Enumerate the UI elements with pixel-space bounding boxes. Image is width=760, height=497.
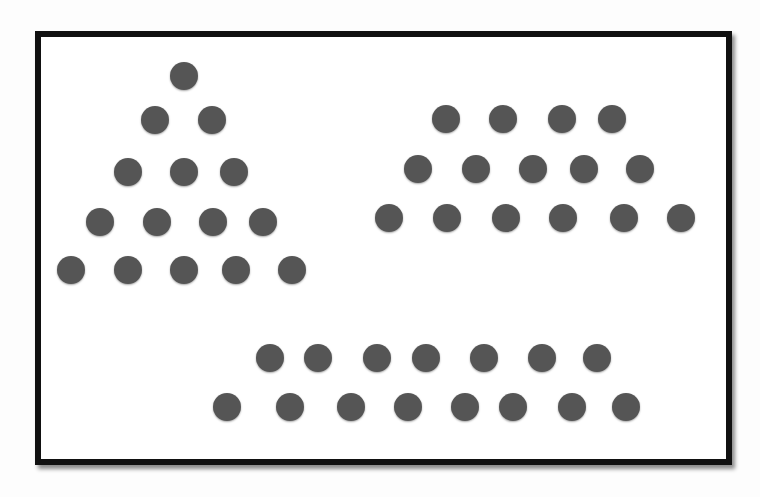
dot-triangle	[170, 158, 198, 186]
dot-two-rows	[583, 344, 611, 372]
dot-trapezoid	[570, 155, 598, 183]
dot-two-rows	[256, 344, 284, 372]
dot-trapezoid	[548, 105, 576, 133]
dot-triangle	[141, 106, 169, 134]
dot-two-rows	[499, 393, 527, 421]
dot-two-rows	[412, 344, 440, 372]
dot-two-rows	[213, 393, 241, 421]
dot-two-rows	[394, 393, 422, 421]
dot-trapezoid	[549, 204, 577, 232]
dot-triangle	[170, 62, 198, 90]
dot-two-rows	[363, 344, 391, 372]
dot-trapezoid	[667, 204, 695, 232]
dot-triangle	[278, 256, 306, 284]
dot-triangle	[143, 208, 171, 236]
dot-trapezoid	[433, 204, 461, 232]
dot-two-rows	[612, 393, 640, 421]
dot-trapezoid	[404, 155, 432, 183]
dot-two-rows	[304, 344, 332, 372]
dot-two-rows	[337, 393, 365, 421]
dot-trapezoid	[598, 105, 626, 133]
dot-triangle	[198, 106, 226, 134]
dot-two-rows	[558, 393, 586, 421]
dot-triangle	[114, 158, 142, 186]
dot-triangle	[222, 256, 250, 284]
dot-two-rows	[451, 393, 479, 421]
dot-two-rows	[528, 344, 556, 372]
dot-two-rows	[276, 393, 304, 421]
dot-trapezoid	[626, 155, 654, 183]
dot-trapezoid	[519, 155, 547, 183]
dot-triangle	[57, 256, 85, 284]
dot-triangle	[249, 208, 277, 236]
dot-triangle	[114, 256, 142, 284]
dot-triangle	[220, 158, 248, 186]
dot-triangle	[170, 256, 198, 284]
dot-trapezoid	[610, 204, 638, 232]
dot-triangle	[86, 208, 114, 236]
dot-trapezoid	[432, 105, 460, 133]
dot-triangle	[199, 208, 227, 236]
dot-trapezoid	[375, 204, 403, 232]
dot-two-rows	[470, 344, 498, 372]
dot-trapezoid	[492, 204, 520, 232]
dot-trapezoid	[489, 105, 517, 133]
dot-trapezoid	[462, 155, 490, 183]
